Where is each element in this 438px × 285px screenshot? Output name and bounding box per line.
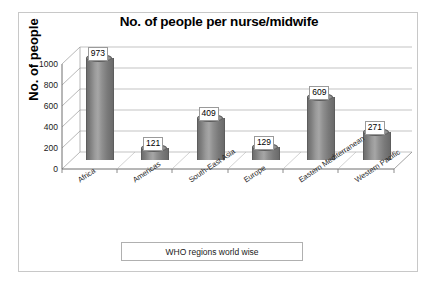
y-tick-400: 400 — [26, 122, 58, 132]
data-label: 271 — [365, 121, 385, 135]
x-axis-title-label: WHO regions world wise — [165, 247, 258, 257]
y-tick-1000: 1000 — [26, 59, 58, 69]
data-label: 409 — [199, 107, 219, 121]
data-label: 129 — [254, 136, 274, 150]
chart-title: No. of people per nurse/midwife — [0, 14, 438, 29]
data-label: 609 — [309, 86, 329, 100]
y-tick-200: 200 — [26, 143, 58, 153]
y-tick-800: 800 — [26, 80, 58, 90]
data-label: 121 — [143, 137, 163, 151]
x-axis-title: WHO regions world wise — [121, 242, 303, 261]
data-label: 973 — [88, 47, 108, 61]
y-tick-600: 600 — [26, 101, 58, 111]
y-tick-0: 0 — [26, 164, 58, 174]
